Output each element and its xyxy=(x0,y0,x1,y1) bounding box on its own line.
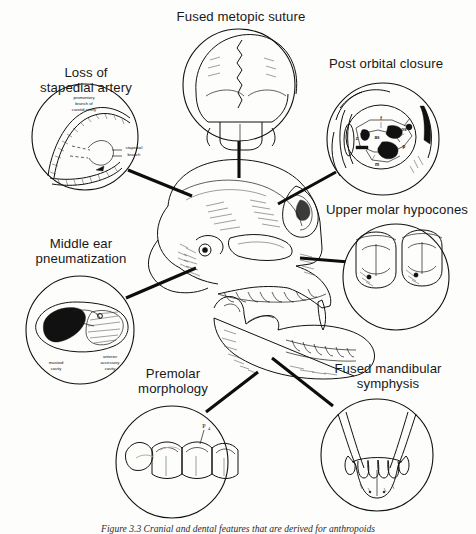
callout-label-hypocones: Upper molar hypocones xyxy=(318,203,476,218)
label-bone-as: as xyxy=(374,135,380,140)
callout-postorbital-closure[interactable]: f os as z p m xyxy=(327,83,439,195)
label-promontory-1: promontory xyxy=(73,95,95,100)
leader-stapedial xyxy=(128,170,192,196)
label-stapedial-branch-1: stapedial xyxy=(126,145,143,150)
callout-label-pneumatization-line1: Middle ear xyxy=(6,237,156,252)
callout-stapedial-artery[interactable]: promontory branch of carotid artery stap… xyxy=(32,84,142,190)
label-promontory-3: carotid artery xyxy=(72,107,97,112)
callout-label-pneumatization-line2: pneumatization xyxy=(6,252,156,267)
callout-label-stapedial-line2: stapedial artery xyxy=(10,81,162,96)
figure-caption: Figure 3.3 Cranial and dental features t… xyxy=(0,523,476,534)
callout-circle-premolar xyxy=(116,406,228,518)
label-stapedial-branch-2: branch xyxy=(128,152,141,157)
central-skull-illustration xyxy=(148,160,330,330)
callout-mandibular-symphysis[interactable] xyxy=(321,399,433,511)
upper-tooth-row xyxy=(224,289,317,302)
callout-label-metopic: Fused metopic suture xyxy=(146,10,336,25)
label-mastoid-2: cavity xyxy=(51,366,63,371)
callout-label-stapedial: Loss of stapedial artery xyxy=(10,66,162,96)
callout-label-symphysis-line1: Fused mandibular xyxy=(306,362,470,377)
callout-molar-hypocones[interactable] xyxy=(343,224,449,330)
callout-label-symphysis-line2: symphysis xyxy=(306,377,470,392)
label-accessory-1: anterior xyxy=(103,354,118,359)
callout-label-premolar: Premolar morphology xyxy=(112,367,234,397)
label-accessory-2: accessory xyxy=(101,360,121,365)
callout-label-symphysis: Fused mandibular symphysis xyxy=(306,362,470,392)
leader-hypocones xyxy=(300,258,349,262)
callout-label-postorbital: Post orbital closure xyxy=(300,57,472,72)
callout-metopic-suture[interactable] xyxy=(183,29,297,150)
callout-circle-metopic xyxy=(183,29,295,141)
label-bone-os: os xyxy=(401,127,407,132)
label-bone-m: m xyxy=(375,162,379,167)
label-bone-p: p xyxy=(403,144,406,149)
callout-premolar-morphology[interactable]: P 4 xyxy=(116,406,238,518)
callout-label-pneumatization: Middle ear pneumatization xyxy=(6,237,156,267)
callout-label-premolar-line1: Premolar xyxy=(112,367,234,382)
temporal-shading xyxy=(206,200,280,230)
label-mastoid-1: mastoid xyxy=(49,360,64,365)
callout-label-premolar-line2: morphology xyxy=(112,382,234,397)
label-promontory-2: branch of xyxy=(75,101,93,106)
callout-label-stapedial-line1: Loss of xyxy=(10,66,162,81)
leader-postorbital xyxy=(278,172,336,204)
